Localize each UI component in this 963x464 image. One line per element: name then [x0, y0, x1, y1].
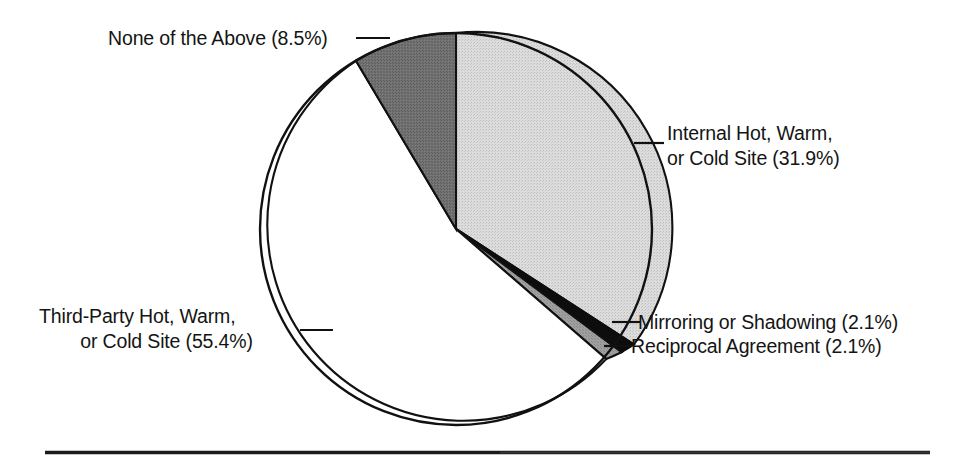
pie-label-third-party-line1: Third-Party Hot, Warm,: [39, 304, 294, 329]
pie-label-internal-line1: Internal Hot, Warm,: [667, 121, 840, 146]
pie-label-mirroring-line1: Mirroring or Shadowing (2.1%): [638, 310, 898, 335]
pie-label-reciprocal-line1: Reciprocal Agreement (2.1%): [631, 334, 882, 359]
pie-label-none-of-the-above-line1: None of the Above (8.5%): [108, 26, 328, 51]
pie-label-third-party-line2: or Cold Site (55.4%): [39, 329, 294, 354]
pie-chart-svg: [0, 0, 963, 464]
pie-slices: [260, 32, 672, 425]
pie-chart-figure: None of the Above (8.5%) Internal Hot, W…: [0, 0, 963, 464]
pie-label-internal-hot-warm-or-cold-site: Internal Hot, Warm, or Cold Site (31.9%): [667, 121, 840, 171]
pie-label-internal-line2: or Cold Site (31.9%): [667, 146, 840, 171]
pie-label-third-party-hot-warm-or-cold-site: Third-Party Hot, Warm, or Cold Site (55.…: [39, 304, 294, 354]
pie-label-none-of-the-above: None of the Above (8.5%): [108, 26, 328, 51]
pie-label-reciprocal-agreement: Reciprocal Agreement (2.1%): [631, 334, 882, 359]
pie-label-mirroring-or-shadowing: Mirroring or Shadowing (2.1%): [638, 310, 898, 335]
